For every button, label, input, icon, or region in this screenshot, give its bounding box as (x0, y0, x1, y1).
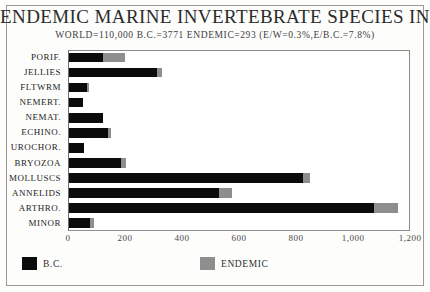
stacked-bar (69, 53, 125, 63)
bar-segment-endemic (87, 83, 89, 93)
stacked-bar (69, 173, 310, 183)
bar-segment-bc (69, 128, 108, 138)
x-axis-labels: 02004006008001,0001,200 (68, 233, 410, 247)
x-axis-tick: 1,000 (342, 233, 365, 243)
bar-segment-endemic (108, 128, 111, 138)
bar-segment-bc (69, 203, 374, 213)
bar-segment-bc (69, 188, 219, 198)
y-axis-label: FLTWRM (0, 80, 64, 95)
bar-row (68, 201, 410, 216)
bar-segment-endemic (157, 68, 162, 78)
x-axis-tick: 200 (118, 233, 133, 243)
bar-segment-bc (69, 218, 90, 228)
bar-row (68, 171, 410, 186)
bar-segment-bc (69, 113, 103, 123)
stacked-bar (69, 203, 398, 213)
bar-segment-bc (69, 173, 303, 183)
legend-label-bc: B.C. (43, 259, 63, 269)
y-axis-label: NEMERT. (0, 95, 64, 110)
bar-segment-endemic (374, 203, 398, 213)
y-axis-label: NEMAT. (0, 110, 64, 125)
bar-segment-bc (69, 68, 157, 78)
bar-row (68, 110, 410, 125)
y-axis-label: UROCHOR. (0, 140, 64, 155)
x-axis-tick: 0 (66, 233, 71, 243)
x-axis-tick: 400 (175, 233, 190, 243)
chart-page: ENDEMIC MARINE INVERTEBRATE SPECIES IN B… (0, 0, 430, 292)
stacked-bar (69, 98, 83, 108)
plot-area (68, 50, 410, 231)
bar-row (68, 80, 410, 95)
stacked-bar (69, 218, 94, 228)
bar-row (68, 50, 410, 65)
bar-segment-endemic (90, 218, 94, 228)
bar-segment-endemic (121, 158, 126, 168)
x-axis-tick: 600 (232, 233, 247, 243)
legend-swatch-bc-icon (22, 257, 37, 270)
bar-row (68, 65, 410, 80)
bar-segment-endemic (219, 188, 232, 198)
bar-row (68, 216, 410, 231)
y-axis-label: ECHINO. (0, 125, 64, 140)
x-axis-tick: 800 (289, 233, 304, 243)
bar-segment-bc (69, 53, 103, 63)
bar-row (68, 140, 410, 155)
stacked-bar (69, 128, 111, 138)
stacked-bar (69, 83, 89, 93)
stacked-bar (69, 158, 126, 168)
chart-legend: B.C. ENDEMIC (22, 257, 408, 275)
y-axis-label: ARTHRO. (0, 201, 64, 216)
bar-row (68, 156, 410, 171)
y-axis-label: ANNELIDS (0, 186, 64, 201)
bar-row (68, 95, 410, 110)
chart-title: ENDEMIC MARINE INVERTEBRATE SPECIES IN B… (0, 6, 430, 28)
y-axis-label: BRYOZOA (0, 156, 64, 171)
bar-row (68, 125, 410, 140)
legend-label-endemic: ENDEMIC (221, 259, 268, 269)
bar-rows (68, 50, 410, 231)
y-axis-label: JELLIES (0, 65, 64, 80)
bar-row (68, 186, 410, 201)
x-axis-tick: 1,200 (399, 233, 422, 243)
stacked-bar (69, 113, 103, 123)
y-axis-labels: PORIF.JELLIESFLTWRMNEMERT.NEMAT.ECHINO.U… (0, 50, 64, 231)
bar-segment-bc (69, 98, 83, 108)
legend-swatch-endemic-icon (200, 257, 215, 270)
bar-segment-bc (69, 83, 87, 93)
stacked-bar (69, 188, 232, 198)
y-axis-label: MOLLUSCS (0, 171, 64, 186)
bar-segment-bc (69, 143, 84, 153)
legend-item-bc: B.C. (22, 257, 63, 270)
y-axis-label: MINOR (0, 216, 64, 231)
bar-segment-bc (69, 158, 121, 168)
chart-subtitle: WORLD=110,000 B.C.=3771 ENDEMIC=293 (E/W… (0, 30, 430, 40)
stacked-bar (69, 68, 162, 78)
bar-segment-endemic (303, 173, 309, 183)
y-axis-label: PORIF. (0, 50, 64, 65)
bar-segment-endemic (103, 53, 126, 63)
stacked-bar (69, 143, 84, 153)
legend-item-endemic: ENDEMIC (200, 257, 268, 270)
